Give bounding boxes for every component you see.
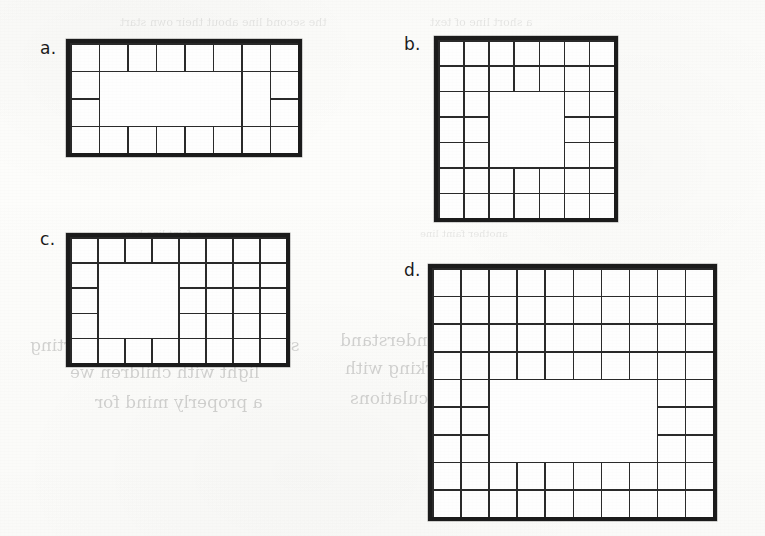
grid-line-vertical bbox=[232, 262, 234, 288]
grid-line-horizontal bbox=[573, 379, 602, 381]
grid-line-vertical bbox=[259, 262, 261, 288]
grid-line-vertical bbox=[544, 296, 546, 325]
grid-line-horizontal bbox=[432, 296, 461, 298]
grid-line-vertical bbox=[685, 351, 687, 380]
grid-line-vertical bbox=[432, 379, 434, 408]
grid-line-vertical bbox=[516, 351, 518, 380]
grid-line-vertical bbox=[544, 268, 546, 297]
grid-line-vertical bbox=[460, 351, 462, 380]
grid-line-vertical bbox=[270, 98, 272, 127]
grid-line-vertical bbox=[259, 338, 261, 363]
grid-line-horizontal bbox=[685, 434, 713, 436]
grid-line-horizontal bbox=[544, 268, 573, 270]
grid-line-horizontal bbox=[270, 126, 299, 128]
grid-line-horizontal bbox=[70, 98, 100, 100]
grid-line-horizontal bbox=[463, 40, 489, 42]
grid-line-vertical bbox=[488, 40, 490, 66]
grid-line-horizontal bbox=[488, 489, 517, 491]
grid-line-vertical bbox=[488, 142, 490, 168]
grid-line-vertical bbox=[539, 167, 541, 193]
grid-line-horizontal bbox=[463, 65, 489, 67]
grid-line-vertical bbox=[70, 71, 72, 100]
grid-line-vertical bbox=[438, 142, 440, 168]
grid-line-horizontal bbox=[213, 126, 243, 128]
grid-line-horizontal bbox=[685, 489, 713, 491]
grid-line-vertical bbox=[516, 323, 518, 352]
grid-line-vertical bbox=[213, 43, 215, 72]
grid-line-vertical bbox=[463, 91, 465, 117]
grid-line-horizontal bbox=[463, 91, 489, 93]
grid-line-horizontal bbox=[601, 268, 630, 270]
grid-line-horizontal bbox=[438, 167, 464, 169]
grid-line-horizontal bbox=[205, 237, 233, 239]
grid-line-vertical bbox=[657, 268, 659, 297]
grid-line-vertical bbox=[657, 296, 659, 325]
grid-line-horizontal bbox=[589, 167, 614, 169]
grid-line-vertical bbox=[589, 142, 591, 168]
grid-line-vertical bbox=[463, 167, 465, 193]
grid-line-horizontal bbox=[513, 167, 539, 169]
grid-line-vertical bbox=[589, 193, 591, 218]
grid-line-horizontal bbox=[488, 296, 517, 298]
grid-line-vertical bbox=[460, 406, 462, 435]
grid-line-vertical bbox=[270, 126, 272, 154]
grid-line-horizontal bbox=[97, 262, 125, 264]
grid-line-vertical bbox=[232, 287, 234, 313]
grid-line-vertical bbox=[205, 338, 207, 363]
grid-line-horizontal bbox=[657, 351, 686, 353]
grid-line-vertical bbox=[438, 40, 440, 66]
grid-line-horizontal bbox=[463, 116, 489, 118]
grid-line-vertical bbox=[70, 98, 72, 127]
figure-label-d: d. bbox=[404, 262, 421, 279]
grid-line-vertical bbox=[432, 351, 434, 380]
grid-line-vertical bbox=[657, 489, 659, 517]
grid-line-horizontal bbox=[573, 462, 602, 464]
grid-line-horizontal bbox=[460, 406, 489, 408]
grid-line-horizontal bbox=[70, 126, 100, 128]
grid-line-vertical bbox=[573, 462, 575, 491]
grid-line-horizontal bbox=[657, 434, 686, 436]
grid-line-horizontal bbox=[516, 268, 545, 270]
bleed-through-text: another faint line bbox=[420, 228, 508, 239]
grid-line-vertical bbox=[232, 338, 234, 363]
grid-line-horizontal bbox=[178, 338, 206, 340]
grid-line-horizontal bbox=[127, 126, 157, 128]
figure-label-a: a. bbox=[40, 40, 56, 57]
grid-line-vertical bbox=[124, 338, 126, 363]
grid-line-vertical bbox=[259, 287, 261, 313]
grid-line-vertical bbox=[463, 142, 465, 168]
figure-cells-a bbox=[70, 43, 298, 153]
grid-line-vertical bbox=[629, 462, 631, 491]
grid-line-horizontal bbox=[657, 406, 686, 408]
grid-line-vertical bbox=[438, 65, 440, 91]
grid-line-vertical bbox=[124, 237, 126, 263]
grid-line-horizontal bbox=[488, 193, 514, 195]
grid-line-horizontal bbox=[156, 43, 186, 45]
grid-line-horizontal bbox=[601, 296, 630, 298]
grid-line-vertical bbox=[657, 379, 659, 408]
grid-line-horizontal bbox=[544, 379, 573, 381]
grid-line-vertical bbox=[463, 65, 465, 91]
grid-line-horizontal bbox=[259, 313, 286, 315]
grid-line-horizontal bbox=[513, 65, 539, 67]
grid-line-vertical bbox=[513, 40, 515, 66]
grid-line-horizontal bbox=[629, 268, 658, 270]
grid-line-horizontal bbox=[516, 323, 545, 325]
grid-line-vertical bbox=[241, 71, 243, 154]
grid-line-horizontal bbox=[685, 268, 713, 270]
grid-line-vertical bbox=[564, 65, 566, 91]
grid-line-vertical bbox=[657, 406, 659, 435]
grid-line-horizontal bbox=[564, 116, 590, 118]
grid-line-vertical bbox=[629, 489, 631, 517]
grid-line-horizontal bbox=[589, 116, 614, 118]
grid-line-vertical bbox=[629, 268, 631, 297]
grid-line-horizontal bbox=[70, 287, 98, 289]
grid-line-horizontal bbox=[70, 43, 100, 45]
grid-line-vertical bbox=[184, 126, 186, 154]
grid-line-horizontal bbox=[488, 268, 517, 270]
grid-line-horizontal bbox=[629, 296, 658, 298]
grid-line-vertical bbox=[564, 167, 566, 193]
figure-outline-b bbox=[434, 36, 618, 222]
grid-line-vertical bbox=[178, 338, 180, 363]
grid-line-horizontal bbox=[629, 379, 658, 381]
